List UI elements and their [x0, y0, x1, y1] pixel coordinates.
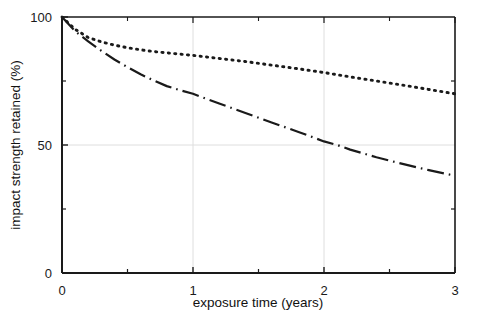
x-tick-label: 3 [451, 283, 458, 298]
grid-lines [62, 17, 455, 273]
x-axis-title: exposure time (years) [193, 295, 324, 310]
y-tick-labels: 050100 [30, 10, 52, 281]
y-tick-label: 100 [30, 10, 52, 25]
series-dash-dot-curve [62, 17, 455, 176]
y-axis-title: impact strength retained (%) [8, 60, 23, 230]
chart-figure: 0123 050100 exposure time (years) impact… [0, 0, 481, 314]
y-tick-label: 0 [45, 266, 52, 281]
data-series [62, 17, 455, 176]
line-chart: 0123 050100 exposure time (years) impact… [0, 0, 481, 314]
x-tick-label: 0 [58, 283, 65, 298]
y-tick-label: 50 [38, 138, 52, 153]
series-dotted-curve [62, 17, 455, 94]
